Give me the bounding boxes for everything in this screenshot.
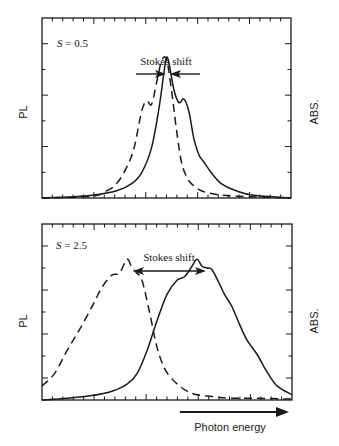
- curves-bottom: [42, 259, 292, 400]
- stokes-shift-arrows-top: [136, 70, 200, 78]
- panel-top: S = 0.5 Stokes shift PL ABS.: [17, 18, 320, 198]
- stokes-shift-double-arrow-bottom: [133, 267, 206, 275]
- param-label-bottom: S = 2.5: [56, 239, 87, 251]
- photon-energy-axis: Photon energy: [180, 407, 289, 433]
- right-axis-label-bottom: ABS.: [308, 308, 320, 333]
- pl-curve: [42, 57, 291, 198]
- curves-top: [42, 57, 291, 198]
- abs-curve: [42, 57, 291, 198]
- panel-bottom: S = 2.5 Stokes shift PL ABS.: [17, 224, 320, 400]
- left-axis-label-top: PL: [17, 105, 29, 118]
- x-axis-label: Photon energy: [194, 421, 266, 433]
- left-axis-label-bottom: PL: [17, 314, 29, 327]
- right-axis-label-top: ABS.: [308, 99, 320, 124]
- arrow-right-icon: [276, 407, 289, 417]
- stokes-shift-figure: S = 0.5 Stokes shift PL ABS. S = 2.5 Sto…: [0, 0, 339, 446]
- stokes-shift-label-top: Stokes shift: [140, 55, 192, 67]
- stokes-shift-label-bottom: Stokes shift: [143, 251, 195, 263]
- param-label-top: S = 0.5: [57, 37, 88, 49]
- abs-curve: [42, 259, 292, 399]
